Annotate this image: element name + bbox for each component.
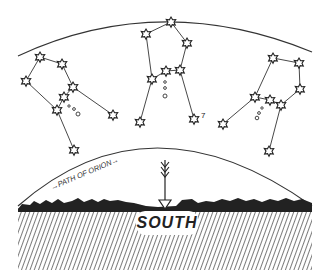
constellation-orion-setting: [223, 58, 300, 151]
path-of-orion-label: →PATH OF ORION→: [49, 155, 120, 192]
star-annotation-7: 7: [201, 111, 206, 120]
south-arrow-icon: [159, 160, 171, 209]
sky-dome-arc: [18, 22, 312, 56]
star-icons-setting: [218, 53, 304, 156]
star-icons-culminating: [135, 17, 198, 127]
constellation-orion-rising: [26, 57, 113, 150]
south-direction-label: SOUTH: [136, 211, 198, 235]
